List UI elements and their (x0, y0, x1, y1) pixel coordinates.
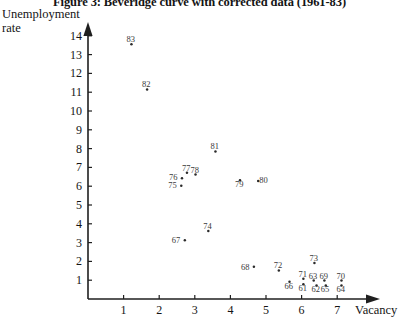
data-point-label-61: 61 (298, 284, 307, 293)
data-point-76 (181, 177, 184, 180)
x-tick-label-6: 6 (295, 304, 309, 316)
x-tick-label-4: 4 (223, 304, 237, 316)
y-tick-label-7: 7 (66, 161, 82, 173)
data-point-75 (180, 185, 183, 188)
data-point-68 (253, 265, 256, 268)
x-tick-label-2: 2 (152, 304, 166, 316)
y-tick-label-1: 1 (66, 274, 82, 286)
data-point-label-73: 73 (309, 254, 318, 263)
x-tick-label-7: 7 (330, 304, 344, 316)
x-tick-label-3: 3 (188, 304, 202, 316)
data-point-label-71: 71 (298, 270, 307, 279)
data-point-label-68: 68 (241, 263, 250, 272)
y-tick-label-8: 8 (66, 143, 82, 155)
y-tick-label-3: 3 (66, 237, 82, 249)
data-point-label-80: 80 (259, 176, 268, 185)
y-tick-label-2: 2 (66, 255, 82, 267)
data-point-label-70: 70 (336, 272, 345, 281)
data-points (130, 43, 343, 287)
data-point-label-78: 78 (191, 166, 200, 175)
data-point-label-67: 67 (172, 236, 181, 245)
data-point-label-75: 75 (168, 181, 177, 190)
data-point-label-77: 77 (182, 164, 191, 173)
axis-lines (83, 22, 380, 304)
data-point-67 (184, 239, 187, 242)
x-tick-label-5: 5 (259, 304, 273, 316)
data-point-label-62: 62 (312, 285, 321, 294)
y-tick-label-11: 11 (66, 86, 82, 98)
axis-ticks (88, 36, 337, 299)
data-point-label-64: 64 (336, 285, 345, 294)
data-point-label-66: 66 (284, 282, 293, 291)
y-tick-label-10: 10 (66, 105, 82, 117)
beveridge-curve-figure: Figure 3: Beveridge curve with corrected… (0, 0, 399, 324)
y-tick-label-12: 12 (66, 67, 82, 79)
data-point-label-72: 72 (274, 261, 283, 270)
y-tick-label-4: 4 (66, 218, 82, 230)
y-tick-label-6: 6 (66, 180, 82, 192)
data-point-label-82: 82 (142, 80, 151, 89)
x-tick-label-1: 1 (117, 304, 131, 316)
data-point-label-81: 81 (210, 142, 219, 151)
data-point-label-83: 83 (126, 35, 135, 44)
data-point-label-69: 69 (319, 272, 328, 281)
y-tick-label-5: 5 (66, 199, 82, 211)
data-point-label-79: 79 (235, 180, 244, 189)
y-tick-label-14: 14 (66, 30, 82, 42)
data-point-label-74: 74 (203, 222, 212, 231)
data-point-label-63: 63 (309, 272, 318, 281)
data-point-label-65: 65 (321, 285, 330, 294)
y-tick-label-9: 9 (66, 124, 82, 136)
y-tick-label-13: 13 (66, 49, 82, 61)
